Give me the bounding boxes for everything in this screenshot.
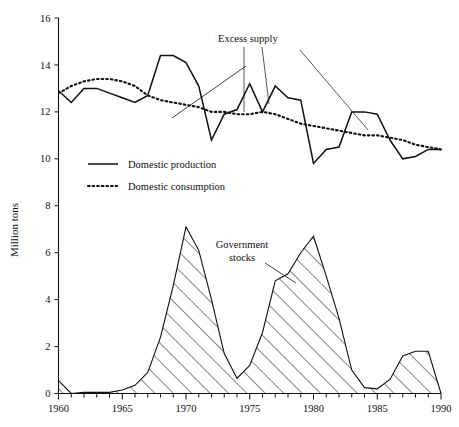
x-tick-marks bbox=[59, 394, 442, 400]
y-tick-label: 10 bbox=[40, 153, 51, 164]
y-tick-label: 12 bbox=[40, 106, 51, 117]
y-tick-label: 16 bbox=[40, 13, 51, 24]
series-domestic-production bbox=[59, 56, 442, 164]
chart-canvas: 0246810121416 19601965197019751980198519… bbox=[0, 0, 459, 427]
y-tick-labels: 0246810121416 bbox=[40, 13, 51, 400]
y-tick-label: 2 bbox=[45, 341, 50, 352]
chart-legend: Domestic production Domestic consumption bbox=[88, 159, 226, 192]
y-tick-label: 8 bbox=[45, 200, 50, 211]
chart-figure: 0246810121416 19601965197019751980198519… bbox=[0, 0, 459, 427]
annotation-government-stocks-line1: Government bbox=[216, 239, 269, 250]
figure-caption-cropped bbox=[0, 411, 459, 427]
y-tick-label: 6 bbox=[45, 247, 50, 258]
y-tick-label: 14 bbox=[40, 60, 51, 71]
annotation-excess-supply: Excess supply bbox=[172, 33, 368, 130]
axis-y: 0246810121416 bbox=[40, 13, 59, 400]
legend-label-domestic-production: Domestic production bbox=[128, 159, 217, 170]
y-axis-title: Million tons bbox=[8, 203, 20, 257]
series-domestic-consumption bbox=[59, 79, 442, 149]
y-tick-label: 4 bbox=[45, 294, 51, 305]
y-tick-label: 0 bbox=[45, 388, 50, 399]
y-tick-marks bbox=[55, 18, 59, 394]
annotation-excess-supply-label: Excess supply bbox=[218, 33, 279, 44]
legend-label-domestic-consumption: Domestic consumption bbox=[128, 181, 226, 192]
annotation-government-stocks-line2: stocks bbox=[229, 252, 255, 263]
